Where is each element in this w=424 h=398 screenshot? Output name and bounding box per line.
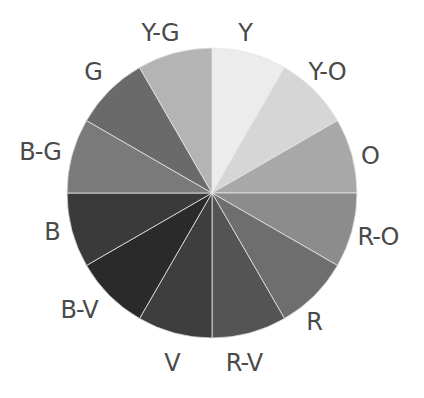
label-y-o: Y-O bbox=[308, 60, 345, 84]
color-wheel bbox=[0, 0, 424, 398]
label-y-g: Y-G bbox=[142, 21, 179, 45]
label-r-v: R-V bbox=[226, 351, 262, 375]
label-r-o: R-O bbox=[358, 225, 399, 249]
label-r: R bbox=[306, 310, 322, 334]
label-g: G bbox=[84, 60, 102, 84]
label-b: B bbox=[44, 220, 59, 244]
label-b-g: B-G bbox=[19, 140, 61, 164]
label-y: Y bbox=[238, 21, 252, 45]
label-b-v: B-V bbox=[60, 298, 97, 322]
label-o: O bbox=[361, 144, 379, 168]
label-v: V bbox=[164, 351, 179, 375]
